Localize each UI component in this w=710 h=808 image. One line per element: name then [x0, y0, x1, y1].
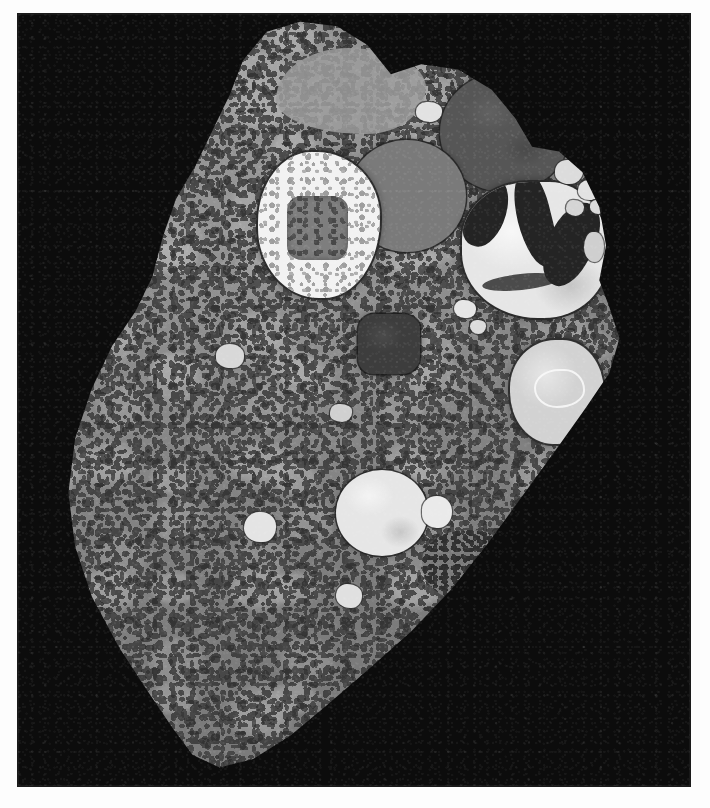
vesicle [614, 174, 630, 192]
ring-inclusion-organelle [510, 340, 604, 444]
vesicle [566, 200, 584, 216]
vesicle [578, 180, 600, 200]
vesicle [616, 272, 646, 304]
cell-cytoplasm [18, 14, 690, 786]
dense-patch-speckle [422, 530, 512, 600]
dark-block-shading [358, 314, 420, 374]
page-canvas [0, 0, 710, 808]
lipid-droplet-sheen [336, 470, 428, 556]
figure-caption [0, 0, 1, 1]
vesicle [416, 102, 442, 122]
vesicle [454, 300, 476, 318]
micrograph-plate [18, 14, 690, 786]
vesicle [584, 232, 604, 262]
granular-vacuole [258, 152, 380, 298]
vesicle [422, 496, 452, 528]
vesicle [590, 200, 604, 214]
upper-left-lobe [276, 48, 426, 134]
vesicle [470, 320, 486, 334]
vesicle [244, 512, 276, 542]
dense-speckled-patch [422, 530, 512, 600]
lipid-droplet-lower [336, 470, 428, 556]
vesicle [330, 404, 352, 422]
vesicle [336, 584, 362, 608]
vesicle [555, 160, 583, 184]
dark-blocky-organelle [358, 314, 420, 374]
vesicle [216, 344, 244, 368]
cell-section [18, 14, 690, 786]
vacuole-dense-core [287, 196, 348, 260]
